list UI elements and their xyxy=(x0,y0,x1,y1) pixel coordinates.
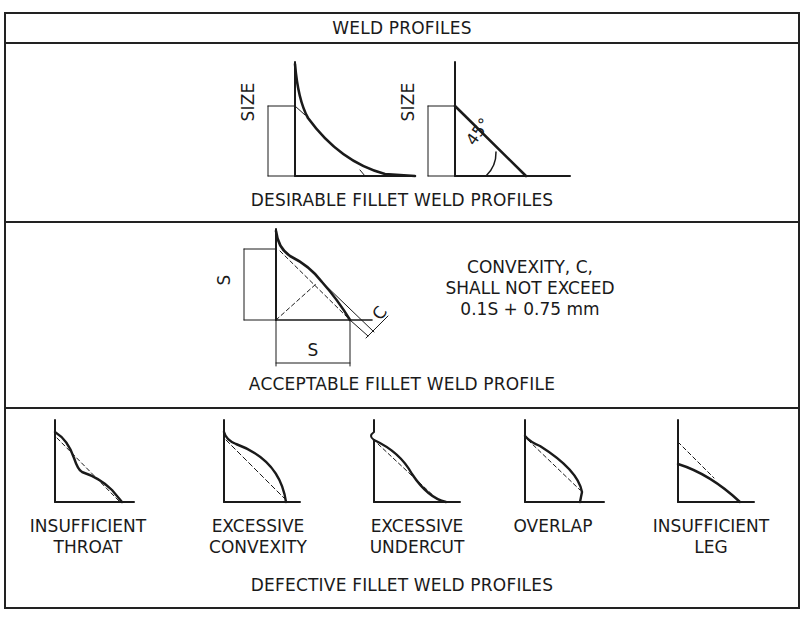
acceptable-caption: ACCEPTABLE FILLET WELD PROFILE xyxy=(4,374,800,394)
defect-label-line: INSUFFICIENT xyxy=(8,516,168,537)
defective-overlap-figure xyxy=(525,420,604,502)
defective-excessive-convexity-figure xyxy=(224,420,300,502)
convexity-note: CONVEXITY, C, SHALL NOT EXCEED 0.1S + 0.… xyxy=(410,257,650,320)
defect-label-line: CONVEXITY xyxy=(178,537,338,558)
defective-caption: DEFECTIVE FILLET WELD PROFILES xyxy=(4,575,800,595)
defect-label-overlap: OVERLAP xyxy=(488,516,618,537)
desirable-concave-figure xyxy=(268,62,415,176)
defective-insufficient-throat-figure xyxy=(55,420,134,502)
defect-label-line: LEG xyxy=(626,537,796,558)
defect-label-line: UNDERCUT xyxy=(337,537,497,558)
defect-label-line: THROAT xyxy=(8,537,168,558)
defect-label-line: OVERLAP xyxy=(488,516,618,537)
defect-label-excessive-convexity: EXCESSIVE CONVEXITY xyxy=(178,516,338,558)
defect-label-insufficient-throat: INSUFFICIENT THROAT xyxy=(8,516,168,558)
defect-label-line: INSUFFICIENT xyxy=(626,516,796,537)
size-label-left: SIZE xyxy=(238,72,258,132)
defective-excessive-undercut-figure xyxy=(371,420,460,502)
desirable-flat-figure xyxy=(428,62,570,176)
size-label-right: SIZE xyxy=(398,72,418,132)
defective-insufficient-leg-figure xyxy=(678,420,754,502)
note-line-2: SHALL NOT EXCEED xyxy=(410,278,650,299)
note-line-3: 0.1S + 0.75 mm xyxy=(410,299,650,320)
defect-label-line: EXCESSIVE xyxy=(337,516,497,537)
defect-label-excessive-undercut: EXCESSIVE UNDERCUT xyxy=(337,516,497,558)
defect-label-line: EXCESSIVE xyxy=(178,516,338,537)
s-label-horizontal: S xyxy=(276,340,350,360)
defect-label-insufficient-leg: INSUFFICIENT LEG xyxy=(626,516,796,558)
note-line-1: CONVEXITY, C, xyxy=(410,257,650,278)
s-label-vertical: S xyxy=(214,265,234,295)
desirable-caption: DESIRABLE FILLET WELD PROFILES xyxy=(4,190,800,210)
